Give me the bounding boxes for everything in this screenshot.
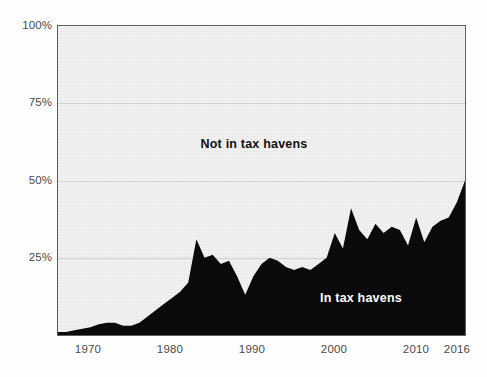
x-tick-2000: 2000: [321, 343, 347, 355]
x-tick-2010: 2010: [403, 343, 429, 355]
x-tick-1990: 1990: [239, 343, 265, 355]
x-axis-labels: 1970 1980 1990 2000 2010 2016: [0, 0, 487, 377]
chart-figure: 100% 75% 50% 25% Not in tax havens In ta…: [0, 0, 487, 377]
x-tick-2016: 2016: [444, 343, 470, 355]
x-tick-1970: 1970: [75, 343, 101, 355]
x-tick-1980: 1980: [157, 343, 183, 355]
